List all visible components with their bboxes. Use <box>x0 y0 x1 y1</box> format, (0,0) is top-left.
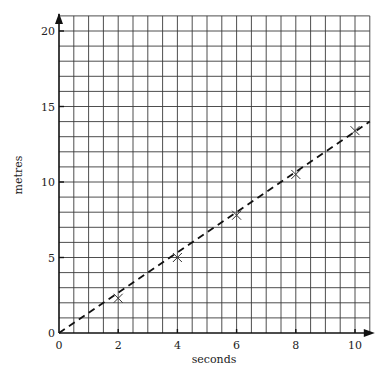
x-axis-arrow-icon <box>364 329 375 337</box>
x-axis-title: seconds <box>192 353 237 366</box>
y-axis-title: metres <box>12 155 25 194</box>
x-tick-label: 4 <box>174 339 181 352</box>
x-tick-label: 6 <box>233 339 240 352</box>
y-axis-arrow-icon <box>55 13 63 24</box>
y-tick-label: 5 <box>48 252 55 265</box>
x-tick-label: 8 <box>292 339 299 352</box>
grid <box>59 16 370 333</box>
y-tick-label: 0 <box>48 327 55 340</box>
x-tick-label: 10 <box>348 339 362 352</box>
distance-time-chart: 024681005101520 seconds metres <box>0 0 387 379</box>
x-tick-label: 2 <box>115 339 122 352</box>
y-tick-label: 15 <box>41 101 55 114</box>
y-tick-label: 10 <box>41 176 55 189</box>
y-tick-label: 20 <box>41 25 55 38</box>
x-tick-label: 0 <box>56 339 63 352</box>
